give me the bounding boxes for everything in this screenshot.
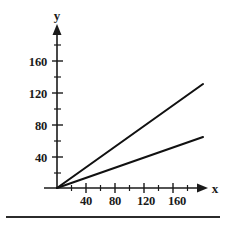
y-tick-label-120: 120 (29, 87, 47, 101)
series-line-lower (57, 137, 203, 188)
bottom-divider (6, 216, 220, 218)
x-tick-label-160: 160 (168, 194, 186, 208)
line-chart: 160 120 80 40 40 80 120 160 y x (0, 0, 226, 228)
y-tick-label-40: 40 (35, 151, 47, 165)
y-tick-label-160: 160 (29, 55, 47, 69)
x-tick-label-40: 40 (80, 194, 92, 208)
y-axis-label: y (54, 8, 61, 23)
x-axis-label: x (212, 181, 219, 196)
chart-canvas: 160 120 80 40 40 80 120 160 y x (0, 0, 226, 228)
series-line-upper (57, 84, 203, 188)
y-axis-arrow-icon (53, 24, 62, 35)
x-tick-label-80: 80 (109, 194, 121, 208)
x-axis-arrow-icon (197, 184, 208, 193)
x-tick-label-120: 120 (137, 194, 155, 208)
y-tick-label-80: 80 (35, 119, 47, 133)
